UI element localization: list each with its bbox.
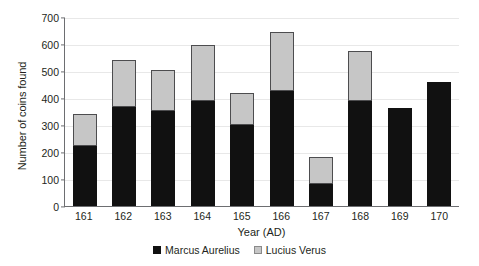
y-axis-title: Number of coins found xyxy=(16,36,28,196)
bar-group[interactable] xyxy=(388,18,412,206)
bar-segment-marcus-aurelius[interactable] xyxy=(112,107,136,206)
bar-group[interactable] xyxy=(348,18,372,206)
bar-segment-lucius-verus[interactable] xyxy=(230,93,254,125)
x-axis-title: Year (AD) xyxy=(64,226,459,238)
bar-segment-marcus-aurelius[interactable] xyxy=(388,108,412,206)
bar-segment-marcus-aurelius[interactable] xyxy=(230,125,254,206)
bar-group[interactable] xyxy=(230,18,254,206)
bar-segment-marcus-aurelius[interactable] xyxy=(348,101,372,206)
bar-segment-lucius-verus[interactable] xyxy=(112,60,136,107)
bar-segment-lucius-verus[interactable] xyxy=(348,51,372,101)
bar-segment-marcus-aurelius[interactable] xyxy=(309,184,333,206)
legend-swatch-lucius-verus xyxy=(254,246,262,254)
legend-item[interactable]: Marcus Aurelius xyxy=(153,244,240,256)
x-axis-tick-label: 167 xyxy=(309,210,333,222)
bar-segment-lucius-verus[interactable] xyxy=(309,157,333,184)
x-axis-tick-label: 166 xyxy=(269,210,293,222)
x-axis-tick-label: 165 xyxy=(230,210,254,222)
bar-group[interactable] xyxy=(427,18,451,206)
bar-group[interactable] xyxy=(191,18,215,206)
bar-series-container xyxy=(65,18,459,206)
y-axis-tick-mark xyxy=(61,206,65,207)
bar-segment-lucius-verus[interactable] xyxy=(151,70,175,111)
x-axis-tick-label: 170 xyxy=(427,210,451,222)
x-axis-tick-label: 168 xyxy=(348,210,372,222)
bar-segment-marcus-aurelius[interactable] xyxy=(427,82,451,206)
bar-segment-marcus-aurelius[interactable] xyxy=(270,91,294,206)
bar-group[interactable] xyxy=(270,18,294,206)
x-axis-tick-label: 169 xyxy=(388,210,412,222)
x-axis-tick-label: 162 xyxy=(111,210,135,222)
x-axis-tick-label: 161 xyxy=(72,210,96,222)
bar-group[interactable] xyxy=(112,18,136,206)
stacked-bar-chart: Number of coins found 010020030040050060… xyxy=(0,0,479,266)
bar-group[interactable] xyxy=(73,18,97,206)
bar-segment-lucius-verus[interactable] xyxy=(73,114,97,146)
legend-item[interactable]: Lucius Verus xyxy=(254,244,326,256)
bar-group[interactable] xyxy=(309,18,333,206)
bar-segment-marcus-aurelius[interactable] xyxy=(151,111,175,206)
bar-segment-marcus-aurelius[interactable] xyxy=(191,101,215,206)
x-axis-tick-labels: 161162163164165166167168169170 xyxy=(64,210,459,222)
bar-segment-lucius-verus[interactable] xyxy=(191,45,215,101)
legend-swatch-marcus-aurelius xyxy=(153,246,161,254)
x-axis-tick-label: 163 xyxy=(151,210,175,222)
chart-legend: Marcus AureliusLucius Verus xyxy=(0,244,479,256)
x-axis-tick-label: 164 xyxy=(190,210,214,222)
bar-segment-lucius-verus[interactable] xyxy=(270,32,294,91)
bar-segment-marcus-aurelius[interactable] xyxy=(73,146,97,206)
legend-label: Marcus Aurelius xyxy=(165,244,240,256)
legend-label: Lucius Verus xyxy=(266,244,326,256)
plot-area: 0100200300400500600700 xyxy=(64,18,459,207)
bar-group[interactable] xyxy=(151,18,175,206)
